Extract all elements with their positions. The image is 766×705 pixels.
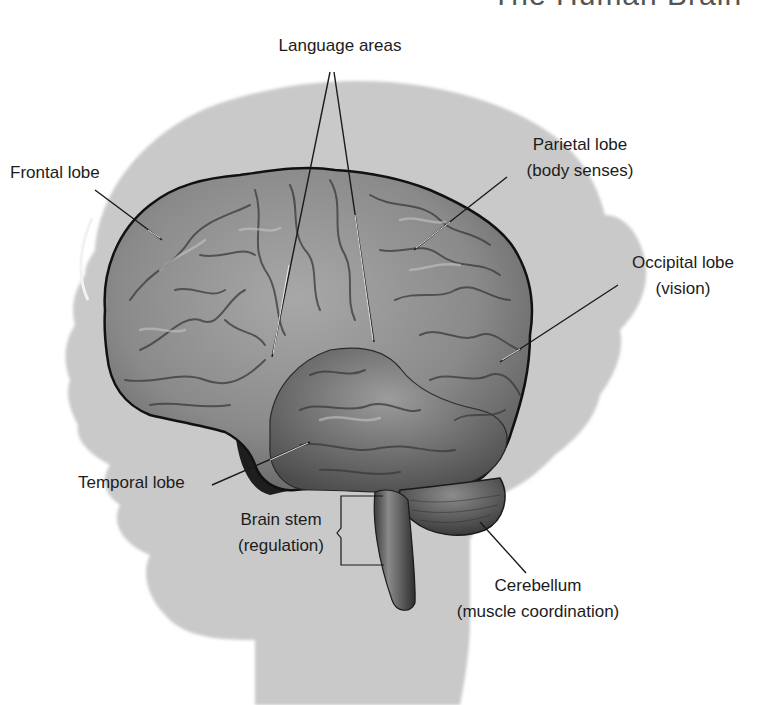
label-brain-stem-name: Brain stem [226, 507, 336, 533]
label-frontal-lobe: Frontal lobe [10, 160, 100, 186]
label-parietal-lobe-function: (body senses) [515, 158, 645, 184]
label-brain-stem-function: (regulation) [226, 533, 336, 559]
label-brain-stem: Brain stem (regulation) [226, 507, 336, 559]
label-frontal-lobe-name: Frontal lobe [10, 160, 100, 186]
label-occipital-lobe: Occipital lobe (vision) [618, 250, 748, 302]
label-cerebellum: Cerebellum (muscle coordination) [438, 573, 638, 625]
brain-diagram: The Human Brain [0, 0, 766, 705]
label-language-areas: Language areas [270, 33, 410, 59]
diagram-artwork [0, 0, 766, 705]
label-cerebellum-function: (muscle coordination) [438, 599, 638, 625]
label-occipital-lobe-function: (vision) [618, 276, 748, 302]
label-temporal-lobe-name: Temporal lobe [78, 470, 185, 496]
label-parietal-lobe-name: Parietal lobe [515, 132, 645, 158]
label-temporal-lobe: Temporal lobe [78, 470, 185, 496]
label-occipital-lobe-name: Occipital lobe [618, 250, 748, 276]
leader-line-cerebellum [480, 522, 526, 573]
label-parietal-lobe: Parietal lobe (body senses) [515, 132, 645, 184]
label-cerebellum-name: Cerebellum [438, 573, 638, 599]
label-language-areas-name: Language areas [270, 33, 410, 59]
